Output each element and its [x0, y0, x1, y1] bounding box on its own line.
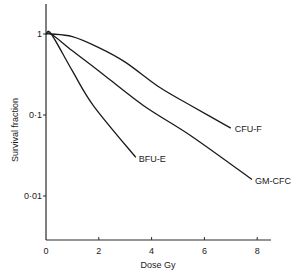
x-tick-label: 0 [43, 246, 48, 256]
series-label-cfu-f: CFU-F [235, 124, 262, 134]
y-ticks: 10·10·01 [24, 29, 46, 201]
y-axis-label: Survival fraction [10, 98, 20, 162]
x-tick-label: 2 [96, 246, 101, 256]
x-tick-label: 8 [255, 246, 260, 256]
x-axis-label: Dose Gy [140, 260, 176, 270]
series-label-gm-cfc: GM-CFC [255, 176, 291, 186]
x-tick-label: 4 [149, 246, 154, 256]
y-tick-label: 1 [37, 29, 42, 39]
survival-chart: 02468 10·10·01 CFU-FGM-CFCBFU-E Dose Gy … [0, 0, 299, 276]
curve-bfu-e [46, 31, 136, 157]
y-tick-label: 0·1 [29, 110, 42, 120]
series-label-bfu-e: BFU-E [139, 154, 166, 164]
x-tick-label: 6 [202, 246, 207, 256]
y-tick-label: 0·01 [24, 191, 42, 201]
curve-cfu-f [46, 34, 231, 128]
series-labels: CFU-FGM-CFCBFU-E [139, 124, 292, 186]
